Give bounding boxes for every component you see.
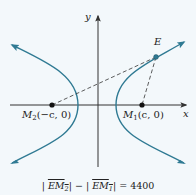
equals-sign: = [116, 180, 130, 191]
minus-sign: − [72, 180, 86, 191]
dashed-line-E-M2 [52, 57, 156, 105]
focus-M1-name: M [123, 109, 133, 120]
y-axis-label: y [85, 12, 91, 22]
abs-bar-open-1: | [42, 180, 45, 191]
hyperbola-plot [0, 0, 196, 195]
focus-M2-coords: (−c, 0) [37, 109, 72, 120]
focus-M2-name: M [22, 109, 32, 120]
segment-EM2-name: EM [48, 180, 65, 191]
hyperbola-figure: y x E M2(−c, 0) M1(c, 0) | EM2| − | EM1|… [0, 0, 196, 195]
point-E-label: E [154, 37, 161, 47]
focus-M2-label: M2(−c, 0) [22, 110, 71, 122]
focus-M1-coords: (c, 0) [138, 109, 164, 120]
abs-bar-open-2: | [86, 180, 89, 191]
point-E [154, 55, 159, 60]
segment-EM1: EM1 [92, 180, 113, 191]
equation-value: 4400 [130, 180, 154, 191]
focus-M1-label: M1(c, 0) [123, 110, 164, 122]
focus-M2-point [49, 102, 54, 107]
segment-EM2: EM2 [48, 180, 69, 191]
segment-EM1-name: EM [92, 180, 109, 191]
focus-M1-point [139, 102, 144, 107]
hyperbola-left-branch [12, 45, 78, 163]
dashed-line-E-M1 [142, 57, 156, 105]
x-axis-label: x [183, 109, 189, 119]
distance-equation: | EM2| − | EM1| = 4400 [0, 181, 196, 193]
